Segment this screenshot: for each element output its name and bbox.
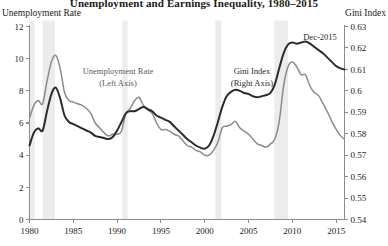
- last-point-annotation: Dec-2015: [303, 32, 337, 42]
- axis-tick-label: 8: [19, 86, 24, 96]
- axis-tick-label: 1980: [21, 226, 40, 236]
- gini-annotation-line2: (Right Axis): [231, 78, 273, 88]
- axis-tick-label: 0.61: [351, 65, 367, 75]
- axis-tick-label: 2015: [327, 226, 346, 236]
- axis-tick-label: 2000: [196, 226, 215, 236]
- axis-tick-label: 4: [19, 150, 24, 160]
- series-line-gini-index: [30, 41, 345, 148]
- axis-tick-label: 0.59: [351, 107, 367, 117]
- unemployment-annotation-line1: Unemployment Rate: [83, 66, 154, 76]
- annotations-group: Unemployment Rate (Left Axis) Gini Index…: [83, 32, 337, 88]
- axis-tick-label: 2005: [240, 226, 259, 236]
- axis-tick-label: 10: [15, 54, 25, 64]
- series-line-unemployment-rate: [30, 55, 345, 155]
- axis-tick-label: 2010: [283, 226, 302, 236]
- axis-tick-label: 1995: [152, 226, 171, 236]
- axis-tick-label: 12: [15, 22, 24, 32]
- axis-tick-label: 1985: [64, 226, 83, 236]
- axis-tick-label: 0.58: [351, 129, 367, 139]
- tick-labels-group: 0246810120.540.550.560.570.580.590.60.61…: [15, 22, 367, 236]
- axis-tick-label: 0.63: [351, 22, 367, 32]
- unemployment-annotation-line2: (Left Axis): [99, 78, 137, 88]
- axis-tick-label: 0.55: [351, 193, 367, 203]
- chart-container: Unemployment and Earnings Inequality, 19…: [0, 0, 388, 246]
- recession-band: [274, 21, 288, 220]
- axis-tick-label: 6: [19, 118, 24, 128]
- axis-tick-label: 0.56: [351, 172, 367, 182]
- axis-tick-label: 0.6: [351, 86, 363, 96]
- axis-tick-label: 0.62: [351, 43, 367, 53]
- gini-annotation-line1: Gini Index: [234, 66, 271, 76]
- axis-tick-label: 0: [19, 215, 24, 225]
- data-series-group: [30, 41, 345, 155]
- axis-tick-label: 1990: [108, 226, 127, 236]
- axis-tick-label: 0.54: [351, 215, 367, 225]
- recession-band: [30, 21, 35, 220]
- chart-plot-area: 0246810120.540.550.560.570.580.590.60.61…: [0, 0, 388, 246]
- axis-tick-label: 2: [19, 183, 24, 193]
- axis-tick-label: 0.57: [351, 150, 367, 160]
